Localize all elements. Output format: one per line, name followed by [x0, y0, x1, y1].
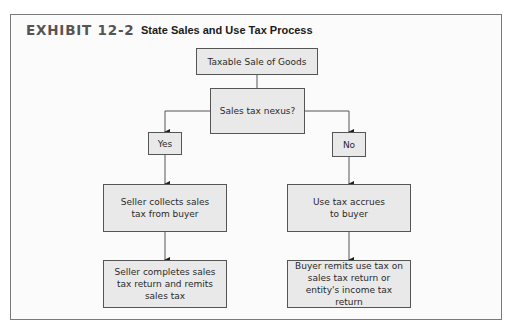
connector-decision-no — [305, 111, 349, 132]
node-no: No — [332, 132, 366, 157]
node-buyer-remits: Buyer remits use tax on sales tax return… — [287, 260, 411, 308]
connector-decision-yes — [165, 111, 210, 132]
node-seller-collects: Seller collects sales tax from buyer — [103, 184, 227, 232]
node-taxable-sale: Taxable Sale of Goods — [196, 48, 318, 75]
node-use-tax-accrues: Use tax accrues to buyer — [287, 184, 411, 232]
node-nexus-decision: Sales tax nexus? — [210, 88, 305, 134]
node-seller-remits: Seller completes sales tax return and re… — [103, 260, 227, 308]
node-yes: Yes — [148, 132, 182, 155]
